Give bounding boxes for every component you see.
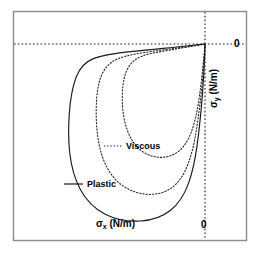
x-axis-unit: (N/m)	[110, 218, 136, 229]
x-axis-subscript: x	[103, 223, 107, 230]
legend-item-viscous: Viscous	[126, 142, 160, 151]
y-axis-label: σy (N/m)	[209, 69, 219, 108]
figure-container: σx (N/m) σy (N/m) 0 0 Viscous Plastic	[0, 0, 263, 255]
y-axis-zero-tick-label: 0	[234, 39, 240, 49]
plot-frame	[14, 12, 247, 241]
x-axis-zero-tick-label: 0	[201, 220, 207, 230]
x-axis-label: σx (N/m)	[96, 219, 135, 229]
y-axis-subscript: y	[213, 97, 220, 101]
yield-envelope-chart	[0, 0, 263, 255]
y-axis-symbol: σ	[208, 101, 219, 108]
y-axis-unit: (N/m)	[208, 69, 219, 95]
x-axis-symbol: σ	[96, 218, 103, 229]
legend-item-plastic: Plastic	[87, 180, 116, 189]
